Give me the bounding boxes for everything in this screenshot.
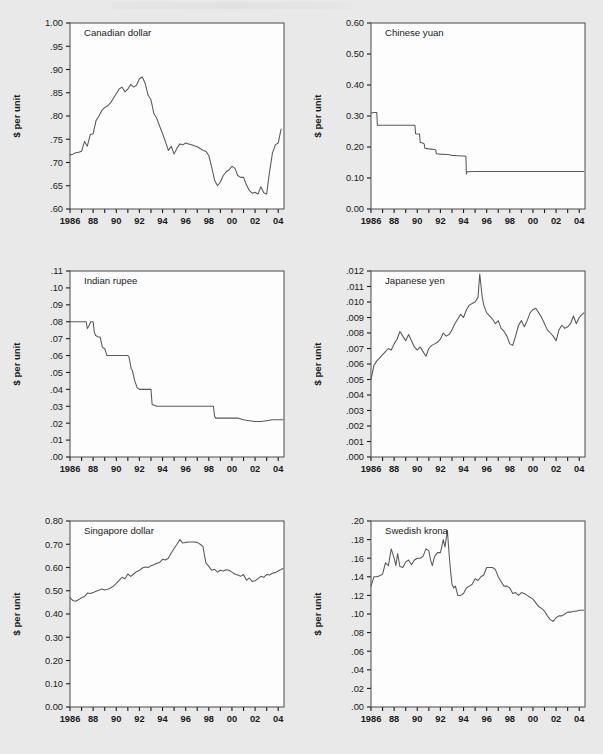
x-tick-label: 98 <box>204 464 214 474</box>
x-tick-label: 88 <box>88 216 98 226</box>
y-tick-label: .008 <box>346 328 364 338</box>
x-tick-label: 88 <box>389 464 399 474</box>
y-tick-label: .006 <box>346 359 364 369</box>
chart-middle-left: .00.01.02.03.04.05.06.07.08.09.10.111986… <box>0 262 301 505</box>
y-axis-label: $ per unit <box>312 94 323 138</box>
y-tick-label: 0.50 <box>45 586 63 596</box>
y-tick-label: 0.30 <box>45 633 63 643</box>
series-title: Chinese yuan <box>385 27 444 38</box>
x-tick-label: 92 <box>435 464 445 474</box>
x-tick-label: 98 <box>505 464 515 474</box>
y-tick-label: .01 <box>50 435 63 445</box>
x-tick-label: 04 <box>273 714 284 724</box>
scan-artifact <box>112 2 352 9</box>
x-tick-label: 92 <box>134 216 144 226</box>
y-tick-label: .20 <box>351 516 364 526</box>
x-tick-label: 88 <box>389 216 399 226</box>
y-tick-label: .000 <box>346 452 364 462</box>
y-tick-label: 0.50 <box>346 49 364 59</box>
y-tick-label: .03 <box>50 402 63 412</box>
y-tick-label: .10 <box>50 283 63 293</box>
x-tick-label: 1986 <box>361 464 382 474</box>
y-tick-label: 0.70 <box>45 540 63 550</box>
x-tick-label: 04 <box>273 464 284 474</box>
plot-background <box>371 271 585 457</box>
y-tick-label: .02 <box>50 419 63 429</box>
y-tick-label: 0.00 <box>346 204 364 214</box>
y-tick-label: .08 <box>50 317 63 327</box>
series-title: Canadian dollar <box>84 27 152 38</box>
x-tick-label: 02 <box>551 216 561 226</box>
y-tick-label: .08 <box>351 628 364 638</box>
x-tick-label: 02 <box>250 714 260 724</box>
plot-background <box>70 271 284 457</box>
y-tick-label: .002 <box>346 421 364 431</box>
y-axis-label: $ per unit <box>312 342 323 386</box>
x-tick-label: 96 <box>181 216 191 226</box>
y-tick-label: .007 <box>346 344 364 354</box>
y-tick-label: .009 <box>346 313 364 323</box>
y-tick-label: 0.40 <box>45 609 63 619</box>
panel-singapore-dollar: 0.000.100.200.300.400.500.600.700.801986… <box>0 512 301 754</box>
x-tick-label: 88 <box>88 714 98 724</box>
x-tick-label: 1986 <box>60 464 81 474</box>
y-tick-label: .16 <box>351 554 364 564</box>
plot-background <box>371 521 585 707</box>
x-tick-label: 94 <box>458 464 469 474</box>
y-tick-label: .12 <box>351 591 364 601</box>
plot-background <box>371 23 585 209</box>
plot-background <box>70 521 284 707</box>
y-tick-label: .003 <box>346 406 364 416</box>
y-tick-label: .012 <box>346 266 364 276</box>
series-title: Singapore dollar <box>84 525 155 536</box>
y-tick-label: .07 <box>50 334 63 344</box>
x-tick-label: 90 <box>111 464 121 474</box>
y-tick-label: 0.10 <box>45 679 63 689</box>
x-tick-label: 90 <box>412 464 422 474</box>
chart-top-right: 0.000.100.200.300.400.500.60198688909294… <box>301 14 603 252</box>
x-tick-label: 90 <box>412 216 422 226</box>
chart-top-left: .60.65.70.75.80.85.90.951.00198688909294… <box>0 14 301 252</box>
y-tick-label: .00 <box>50 452 63 462</box>
x-tick-label: 96 <box>482 464 492 474</box>
x-tick-label: 94 <box>157 714 168 724</box>
x-tick-label: 98 <box>204 714 214 724</box>
x-tick-label: 96 <box>482 714 492 724</box>
x-tick-label: 02 <box>551 464 561 474</box>
y-tick-label: .70 <box>50 158 63 168</box>
x-tick-label: 02 <box>551 714 561 724</box>
x-tick-label: 92 <box>435 714 445 724</box>
y-tick-label: 0.10 <box>346 173 364 183</box>
x-tick-label: 04 <box>574 714 585 724</box>
chart-bottom-right: .00.02.04.06.08.10.12.14.16.18.201986889… <box>301 512 603 754</box>
series-title: Japanese yen <box>385 275 445 286</box>
x-tick-label: 1986 <box>361 714 382 724</box>
y-tick-label: .18 <box>351 535 364 545</box>
y-tick-label: .11 <box>51 266 63 276</box>
y-tick-label: .001 <box>346 437 364 447</box>
y-tick-label: .85 <box>50 88 63 98</box>
y-axis-label: $ per unit <box>11 94 22 138</box>
y-tick-label: .05 <box>50 368 63 378</box>
x-tick-label: 92 <box>134 464 144 474</box>
y-tick-label: 0.00 <box>45 702 63 712</box>
y-tick-label: .04 <box>50 385 63 395</box>
panel-japanese-yen: .000.001.002.003.004.005.006.007.008.009… <box>301 262 603 505</box>
x-tick-label: 96 <box>181 714 191 724</box>
y-tick-label: .75 <box>50 135 63 145</box>
y-tick-label: .14 <box>351 572 364 582</box>
y-tick-label: 0.40 <box>346 80 364 90</box>
x-tick-label: 94 <box>458 714 469 724</box>
x-tick-label: 04 <box>273 216 284 226</box>
y-tick-label: .011 <box>347 282 364 292</box>
x-tick-label: 90 <box>111 714 121 724</box>
chart-middle-right: .000.001.002.003.004.005.006.007.008.009… <box>301 262 603 505</box>
y-tick-label: .04 <box>351 665 364 675</box>
panel-swedish-krona: .00.02.04.06.08.10.12.14.16.18.201986889… <box>301 512 603 754</box>
y-tick-label: .02 <box>351 684 364 694</box>
y-tick-label: .90 <box>50 65 63 75</box>
y-tick-label: 0.20 <box>45 656 63 666</box>
y-axis-label: $ per unit <box>11 342 22 386</box>
y-axis-label: $ per unit <box>312 592 323 636</box>
y-tick-label: .010 <box>346 297 364 307</box>
